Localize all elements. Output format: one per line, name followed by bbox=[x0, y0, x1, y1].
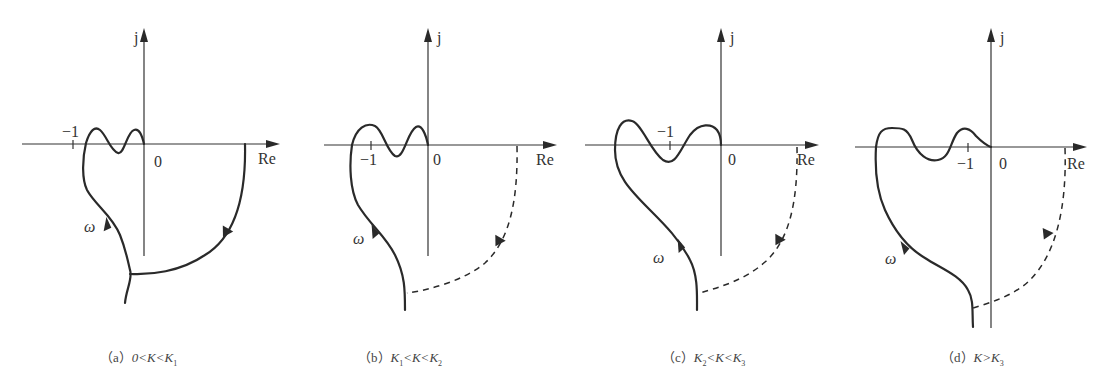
minus-one-label: −1 bbox=[957, 156, 974, 172]
nyquist-plot-c: j Re 0 −1 ω （c）K2<K<K3 bbox=[560, 0, 840, 386]
imag-axis-label: j bbox=[1000, 30, 1004, 46]
caption-c: （c）K2<K<K3 bbox=[662, 347, 745, 368]
re-axis-arrow-icon bbox=[543, 141, 557, 149]
imag-axis-arrow-icon bbox=[424, 28, 432, 42]
minus-one-label: −1 bbox=[360, 152, 377, 168]
caption-b: （b）K1<K<K2 bbox=[358, 347, 442, 368]
nyquist-curve bbox=[83, 129, 144, 303]
omega-label: ω bbox=[84, 219, 95, 235]
plot-a-canvas bbox=[0, 0, 280, 340]
infinite-arc bbox=[700, 147, 797, 293]
minus-one-label: −1 bbox=[657, 124, 674, 140]
origin-label: 0 bbox=[433, 152, 441, 168]
caption-a: （a）0<K<K1 bbox=[100, 347, 177, 368]
origin-label: 0 bbox=[999, 156, 1007, 172]
re-axis-arrow-icon bbox=[266, 140, 280, 148]
caption-sub: 1 bbox=[173, 359, 177, 368]
nyquist-plot-d: j Re 0 −1 ω （d）K>K3 bbox=[830, 0, 1106, 386]
omega-label: ω bbox=[353, 231, 364, 247]
caption-prefix: （d） bbox=[941, 350, 974, 365]
imag-axis-label: j bbox=[730, 30, 734, 46]
caption-math: 0<K<K bbox=[132, 350, 173, 365]
origin-label: 0 bbox=[154, 154, 162, 170]
omega-label: ω bbox=[885, 251, 896, 267]
plot-b-canvas bbox=[280, 0, 560, 340]
origin-label: 0 bbox=[728, 152, 736, 168]
caption-d: （d）K>K3 bbox=[941, 347, 1004, 368]
nyquist-plot-a: j Re 0 −1 ω （a）0<K<K1 bbox=[0, 0, 280, 386]
infinite-arc bbox=[973, 148, 1065, 308]
caption-tail: <K<K bbox=[706, 350, 741, 365]
infinite-arc bbox=[130, 144, 245, 274]
imag-axis-arrow-icon bbox=[717, 28, 725, 42]
nyquist-plot-b: j Re 0 −1 ω （b）K1<K<K2 bbox=[280, 0, 560, 386]
caption-math: K>K bbox=[974, 350, 1000, 365]
caption-sub2: 2 bbox=[438, 359, 442, 368]
imag-axis-label: j bbox=[134, 30, 138, 46]
caption-prefix: （a） bbox=[100, 350, 132, 365]
caption-prefix: （b） bbox=[358, 350, 391, 365]
plot-c-canvas bbox=[560, 0, 840, 340]
re-axis-arrow-icon bbox=[1073, 143, 1087, 151]
imag-axis-label: j bbox=[437, 30, 441, 46]
caption-math: K bbox=[391, 350, 400, 365]
arc-direction-arrow-icon bbox=[1038, 228, 1053, 242]
re-axis-arrow-icon bbox=[805, 141, 819, 149]
omega-label: ω bbox=[653, 250, 664, 266]
caption-sub: 3 bbox=[1000, 359, 1004, 368]
re-axis-label: Re bbox=[797, 152, 815, 168]
caption-prefix: （c） bbox=[662, 350, 694, 365]
infinite-arc bbox=[407, 146, 517, 293]
minus-one-label: −1 bbox=[62, 124, 79, 140]
imag-axis-arrow-icon bbox=[987, 28, 995, 42]
imag-axis-arrow-icon bbox=[140, 28, 148, 42]
caption-tail: <K<K bbox=[403, 350, 438, 365]
nyquist-curve bbox=[615, 120, 721, 310]
re-axis-label: Re bbox=[258, 151, 276, 167]
re-axis-label: Re bbox=[1067, 156, 1085, 172]
re-axis-label: Re bbox=[536, 152, 554, 168]
caption-sub2: 3 bbox=[741, 359, 745, 368]
